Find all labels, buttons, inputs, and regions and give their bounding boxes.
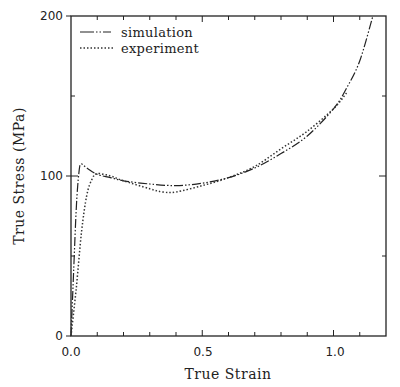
simulation-curve [71,16,373,336]
x-axis-label: True Strain [184,366,271,382]
y-tick-200: 200 [40,9,63,23]
x-tick-0: 0.0 [61,345,80,359]
y-tick-0: 0 [55,329,63,343]
legend: simulation experiment [80,25,200,56]
axis-ticks [66,16,386,336]
x-tick-0-5: 0.5 [193,345,212,359]
plot-frame [71,16,386,336]
y-axis-label: True Stress (MPa) [11,107,27,245]
x-tick-1-0: 1.0 [325,345,344,359]
y-tick-100: 100 [40,169,63,183]
stress-strain-chart: 0.0 0.5 1.0 0 100 200 True Strain True S… [0,0,400,387]
legend-experiment-label: experiment [121,41,200,56]
legend-simulation-label: simulation [121,25,193,40]
experiment-curve [71,93,347,336]
